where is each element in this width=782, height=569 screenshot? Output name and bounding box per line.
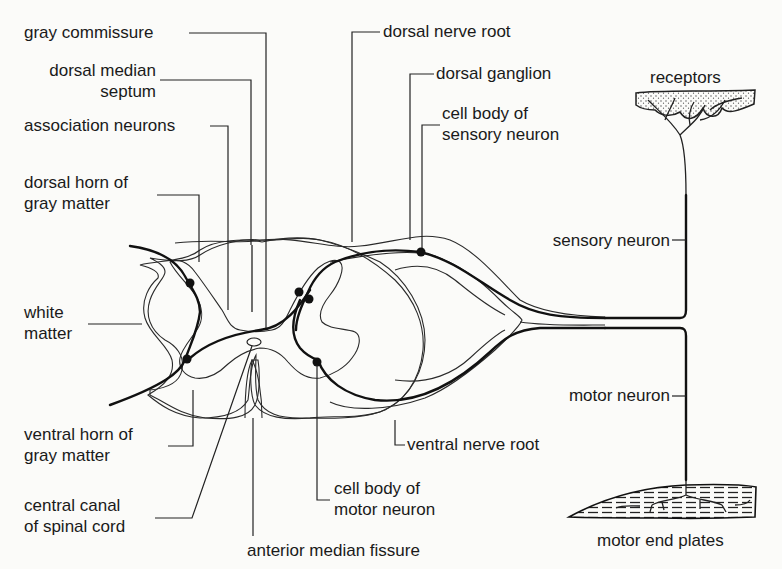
label-association-neurons: association neurons	[24, 115, 175, 136]
label-ventral-horn-line2: gray matter	[24, 445, 133, 466]
association-neuron-cell-2	[305, 295, 314, 304]
label-gray-commissure: gray commissure	[24, 22, 153, 43]
label-cell-body-motor-line1: cell body of	[334, 478, 435, 499]
receptors-graphic	[636, 90, 755, 195]
label-white-matter: white matter	[24, 302, 72, 344]
label-white-matter-line2: matter	[24, 323, 72, 344]
label-dorsal-horn-line2: gray matter	[24, 193, 128, 214]
label-cell-body-motor-neuron: cell body of motor neuron	[334, 478, 435, 520]
label-ventral-horn-line1: ventral horn of	[24, 424, 133, 445]
label-cell-body-motor-line2: motor neuron	[334, 499, 435, 520]
label-central-canal-line1: central canal	[24, 495, 125, 516]
dorsal-horn-cell-left	[186, 279, 195, 288]
label-ventral-horn: ventral horn of gray matter	[24, 424, 133, 466]
label-dorsal-nerve-root: dorsal nerve root	[383, 21, 511, 42]
label-dorsal-median-septum: dorsal median septum	[24, 60, 156, 102]
label-sensory-neuron: sensory neuron	[520, 230, 670, 251]
label-anterior-median-fissure: anterior median fissure	[247, 540, 420, 561]
central-canal	[247, 338, 261, 346]
label-motor-end-plates: motor end plates	[597, 530, 724, 551]
label-dorsal-median-septum-line2: septum	[24, 81, 156, 102]
ventral-horn-cell-left	[183, 355, 192, 364]
association-neuron-cell-1	[295, 288, 304, 297]
label-receptors: receptors	[650, 67, 721, 88]
label-cell-body-sensory-neuron: cell body of sensory neuron	[442, 103, 559, 145]
label-dorsal-median-septum-line1: dorsal median	[24, 60, 156, 81]
label-white-matter-line1: white	[24, 302, 72, 323]
label-cell-body-sensory-line1: cell body of	[442, 103, 559, 124]
label-central-canal-line2: of spinal cord	[24, 516, 125, 537]
label-dorsal-ganglion: dorsal ganglion	[436, 63, 551, 84]
label-central-canal: central canal of spinal cord	[24, 495, 125, 537]
cell-body-sensory-neuron	[417, 248, 426, 257]
label-motor-neuron: motor neuron	[520, 385, 670, 406]
label-dorsal-horn: dorsal horn of gray matter	[24, 172, 128, 214]
leader-lines	[88, 32, 686, 536]
white-matter-left	[140, 238, 423, 418]
muscle-motor-end-plates	[569, 480, 756, 518]
label-cell-body-sensory-line2: sensory neuron	[442, 124, 559, 145]
label-dorsal-horn-line1: dorsal horn of	[24, 172, 128, 193]
label-ventral-nerve-root: ventral nerve root	[407, 434, 539, 455]
